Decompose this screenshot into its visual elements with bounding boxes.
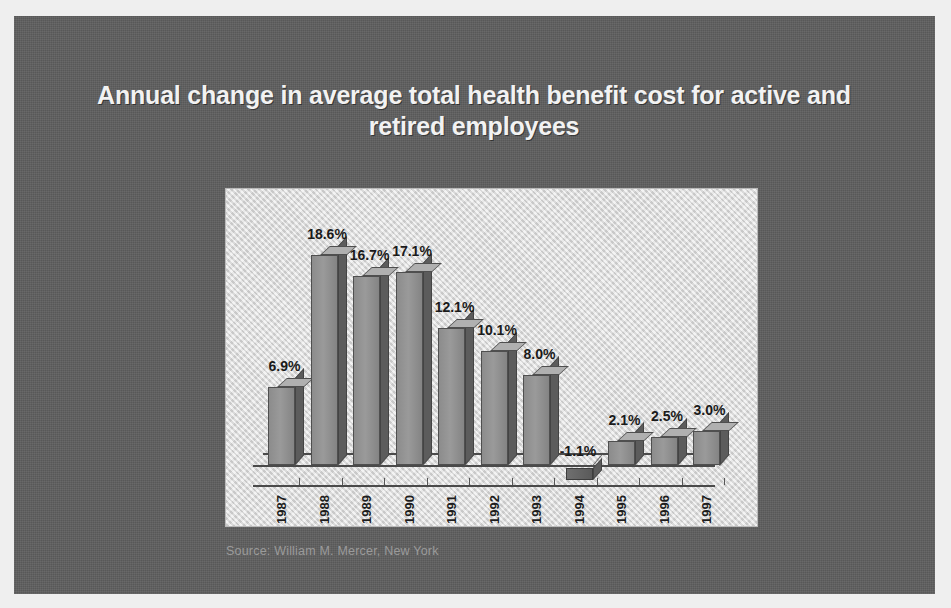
x-axis-label-1989: 1989: [359, 495, 374, 524]
axis-baseline-lower: [253, 485, 715, 487]
bar-top-face: [277, 378, 314, 387]
axis-tick-lower: [682, 478, 683, 485]
x-axis-label-1992: 1992: [487, 495, 502, 524]
axis-tick-lower: [554, 478, 555, 485]
bar-side-face: [380, 257, 389, 465]
x-axis-label-1997: 1997: [699, 495, 714, 524]
axis-tick-lower: [512, 478, 513, 485]
x-axis-label-1993: 1993: [529, 495, 544, 524]
bar-1997[interactable]: [693, 431, 720, 465]
axis-tick-lower: [639, 478, 640, 485]
bar-1993[interactable]: [523, 375, 550, 465]
bar-top-face: [660, 428, 697, 437]
bar-1996[interactable]: [651, 437, 678, 465]
bar-1990[interactable]: [396, 272, 423, 465]
x-axis-label-1996: 1996: [657, 495, 672, 524]
slide-frame: Annual change in average total health be…: [0, 0, 951, 608]
bar-value-label-1991: 12.1%: [428, 299, 481, 315]
page-title: Annual change in average total health be…: [74, 80, 874, 142]
bar-top-face: [532, 366, 569, 375]
plot-area: 6.9%198718.6%198816.7%198917.1%199012.1%…: [225, 188, 758, 527]
bar-side-face: [423, 253, 432, 465]
axis-tick-lower: [384, 478, 385, 485]
axis-tick-lower: [469, 478, 470, 485]
bar-top-face: [702, 422, 739, 431]
bar-side-face: [338, 236, 347, 465]
bar-value-label-1993: 8.0%: [513, 346, 566, 362]
bar-side-face: [720, 412, 729, 465]
x-axis-label-1994: 1994: [572, 495, 587, 524]
bar-1991[interactable]: [438, 328, 465, 465]
source-note: Source: William M. Mercer, New York: [226, 544, 439, 558]
bar-value-label-1992: 10.1%: [471, 322, 524, 338]
x-axis-label-1988: 1988: [317, 495, 332, 524]
axis-tick-lower: [427, 478, 428, 485]
x-axis-label-1990: 1990: [402, 495, 417, 524]
bar-top-face: [405, 263, 442, 272]
x-axis-label-1995: 1995: [614, 495, 629, 524]
bar-top-face: [617, 432, 654, 441]
bar-1988[interactable]: [311, 255, 338, 465]
bar-1989[interactable]: [353, 276, 380, 465]
bar-1994[interactable]: [566, 468, 593, 480]
bar-chart: 6.9%198718.6%198816.7%198917.1%199012.1%…: [225, 188, 758, 527]
axis-tick-lower: [299, 478, 300, 485]
bar-value-label-1994: -1.1%: [550, 443, 607, 459]
axis-tick-lower: [597, 478, 598, 485]
bar-value-label-1990: 17.1%: [386, 243, 439, 259]
axis-tick-lower: [724, 478, 725, 485]
bar-value-label-1988: 18.6%: [301, 226, 354, 242]
bar-top-face: [362, 267, 399, 276]
bar-1995[interactable]: [608, 441, 635, 465]
slide-panel: Annual change in average total health be…: [14, 16, 935, 594]
bar-1987[interactable]: [268, 387, 295, 465]
bar-1992[interactable]: [481, 351, 508, 465]
bar-value-label-1987: 6.9%: [258, 358, 311, 374]
bar-value-label-1997: 3.0%: [683, 402, 736, 418]
axis-tick-lower: [342, 478, 343, 485]
x-axis-label-1987: 1987: [274, 495, 289, 524]
x-axis-label-1991: 1991: [444, 495, 459, 524]
axis-line-front: [253, 465, 715, 467]
